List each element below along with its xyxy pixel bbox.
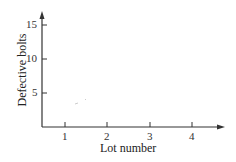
x-axis-label: Lot number [100, 141, 156, 156]
y-axis-label: Defective bolts [15, 34, 30, 107]
y-tick-5: 5 [32, 87, 38, 98]
x-tick-1: 1 [62, 131, 68, 142]
x-tick-4: 4 [189, 131, 195, 142]
y-tick-15: 15 [26, 19, 37, 30]
